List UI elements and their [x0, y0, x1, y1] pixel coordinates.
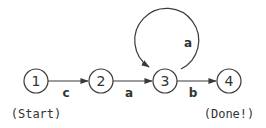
edge-label-1-2: c: [62, 86, 69, 100]
node-3: 3: [153, 69, 177, 93]
node-2: 2: [89, 69, 113, 93]
node-label-4: 4: [225, 73, 234, 89]
edge-label-2-3: a: [125, 86, 133, 100]
node-label-2: 2: [97, 73, 106, 89]
done-caption: (Done!): [204, 107, 255, 121]
edge-label-3-3: a: [184, 36, 192, 50]
node-label-1: 1: [32, 73, 41, 89]
state-diagram: c a b a 1 2 3 4 (Start) (Done!): [0, 0, 266, 128]
node-4: 4: [217, 69, 241, 93]
node-label-3: 3: [161, 73, 170, 89]
node-1: 1: [24, 69, 48, 93]
start-caption: (Start): [11, 107, 62, 121]
edge-label-3-4: b: [189, 86, 198, 100]
